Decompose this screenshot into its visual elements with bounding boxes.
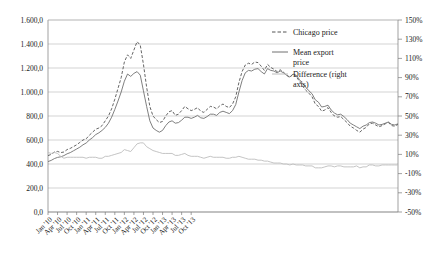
y-axis-right-tick-label: 30% bbox=[405, 131, 419, 140]
y-axis-right-tick-label: -30% bbox=[405, 188, 421, 197]
legend-label: price bbox=[293, 58, 309, 67]
y-axis-left-tick-label: 600,0 bbox=[26, 136, 43, 145]
chart-container: 0,0200,0400,0600,0800,01.000,01.200,01.4… bbox=[0, 0, 440, 254]
y-axis-right-tick-label: 70% bbox=[405, 92, 419, 101]
chart-svg: 0,0200,0400,0600,0800,01.000,01.200,01.4… bbox=[0, 0, 440, 254]
y-axis-right-tick-label: 110% bbox=[405, 54, 422, 63]
y-axis-right-tick-label: 130% bbox=[405, 35, 423, 44]
series-line-mean-export-price bbox=[48, 69, 398, 162]
y-axis-left-tick-label: 1.000,0 bbox=[21, 88, 44, 97]
series-line-chicago-price bbox=[48, 42, 398, 156]
y-axis-right-labels: -50%-30%-10%10%30%50%70%90%110%130%150% bbox=[398, 16, 423, 217]
y-axis-left-tick-label: 200,0 bbox=[26, 184, 43, 193]
gridlines bbox=[48, 20, 398, 212]
y-axis-right-tick-label: 10% bbox=[405, 150, 419, 159]
y-axis-left-tick-label: 1.200,0 bbox=[21, 64, 44, 73]
legend-label: axis) bbox=[293, 80, 309, 89]
y-axis-right-tick-label: 90% bbox=[405, 73, 419, 82]
y-axis-left-tick-label: 800,0 bbox=[26, 112, 43, 121]
legend-label: Difference (right bbox=[293, 70, 348, 79]
y-axis-right-tick-label: 50% bbox=[405, 112, 419, 121]
y-axis-right-tick-label: -10% bbox=[405, 169, 421, 178]
y-axis-right-tick-label: -50% bbox=[405, 208, 421, 217]
legend-label: Chicago price bbox=[293, 28, 338, 37]
y-axis-left-tick-label: 1.400,0 bbox=[21, 40, 44, 49]
y-axis-left-tick-label: 1.600,0 bbox=[21, 16, 44, 25]
legend-label: Mean export bbox=[293, 48, 334, 57]
data-series-group bbox=[48, 42, 398, 168]
x-axis-labels: Jan '10Apr '10Jul '10Oct '10Jan '11Apr '… bbox=[34, 212, 197, 237]
y-axis-right-tick-label: 150% bbox=[405, 16, 423, 25]
y-axis-left-labels: 0,0200,0400,0600,0800,01.000,01.200,01.4… bbox=[21, 16, 44, 217]
y-axis-left-tick-label: 400,0 bbox=[26, 160, 43, 169]
chart-legend: Chicago priceMean exportpriceDifference … bbox=[272, 28, 348, 89]
y-axis-left-tick-label: 0,0 bbox=[34, 208, 44, 217]
